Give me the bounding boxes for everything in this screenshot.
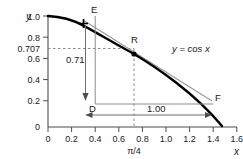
point-label-D: D: [89, 103, 96, 114]
x-tick-label-9: 1.6: [231, 134, 243, 144]
x-tick-label-4: 0.6: [113, 134, 126, 144]
x-tick-label-1: 0: [45, 134, 50, 144]
point-label-E: E: [91, 4, 97, 15]
x-tick-label-7: 1.2: [183, 134, 196, 144]
y-axis-name-label: y: [25, 11, 32, 22]
x-tick-label-2: 0.2: [65, 134, 78, 144]
y-tick-label-5: 0.2: [27, 96, 40, 106]
equation-label-y-equals-cos-x: y = cos x: [171, 43, 211, 54]
point-label-R: R: [131, 34, 138, 45]
x-tick-label-8: 1.4: [207, 134, 220, 144]
plot-svg: 1.0 0.8 0.707 0.6 0.4 0.2 0 0 0.2 0.4 0.…: [0, 0, 243, 159]
y-tick-marks: [43, 16, 48, 101]
x-tick-label-5: 0.8: [136, 134, 149, 144]
x-axis-name-label: x: [233, 146, 240, 157]
y-tick-label-4: 0.4: [27, 75, 40, 85]
x-tick-marks: [48, 127, 237, 132]
x-tick-label-6: 1.0: [160, 134, 173, 144]
y-tick-label-2: 0.8: [27, 33, 40, 43]
cosine-curve: [48, 16, 222, 126]
annotation-run-100: 1.00: [147, 103, 166, 114]
y-tick-label-0707: 0.707: [17, 44, 40, 54]
secant-line-EF: [83, 20, 212, 101]
y-tick-label-6: 0: [35, 122, 40, 132]
point-label-F: F: [215, 92, 221, 103]
figure-cosine-slope-diagram: 1.0 0.8 0.707 0.6 0.4 0.2 0 0 0.2 0.4 0.…: [0, 0, 243, 159]
y-tick-label-3: 0.6: [27, 54, 40, 64]
annotation-rise-071: 0.71: [66, 54, 85, 65]
point-marker-R: [131, 51, 136, 56]
x-axis-pi-over-4-label: π/4: [127, 146, 141, 156]
x-tick-label-3: 0.4: [89, 134, 102, 144]
